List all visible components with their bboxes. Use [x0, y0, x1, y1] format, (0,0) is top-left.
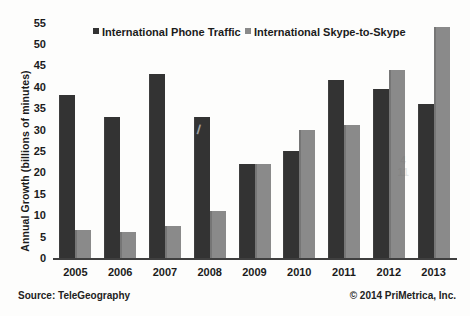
- copyright-notice: © 2014 PriMetrica, Inc.: [350, 290, 456, 301]
- watermark-artifact: 4 11: [395, 154, 411, 178]
- bar-phone-2013: [418, 104, 434, 258]
- bar-skype-2013: [434, 27, 450, 258]
- y-tick-label-30: 30: [18, 124, 46, 136]
- y-tick-label-15: 15: [18, 188, 46, 200]
- x-axis-line: [53, 258, 457, 260]
- bar-phone-2007: [149, 74, 165, 258]
- x-tick-label-2006: 2006: [98, 266, 142, 278]
- x-tick-label-2010: 2010: [277, 266, 321, 278]
- bar-phone-2011: [328, 80, 344, 258]
- bar-phone-2012: [373, 89, 389, 258]
- bar-phone-2008: [194, 117, 210, 258]
- y-axis-title: Annual Growth (billions of minutes): [19, 70, 31, 251]
- x-tick-label-2008: 2008: [188, 266, 232, 278]
- y-tick-label-10: 10: [18, 209, 46, 221]
- y-tick-label-20: 20: [18, 166, 46, 178]
- y-tick-label-55: 55: [18, 17, 46, 29]
- y-tick-label-45: 45: [18, 59, 46, 71]
- x-tick-label-2005: 2005: [53, 266, 97, 278]
- x-tick-label-2012: 2012: [367, 266, 411, 278]
- bar-skype-2009: [255, 164, 271, 258]
- y-tick-label-5: 5: [18, 231, 46, 243]
- plot-area: [53, 0, 456, 258]
- x-tick-label-2007: 2007: [143, 266, 187, 278]
- bar-phone-2010: [283, 151, 299, 258]
- bar-skype-2005: [75, 230, 91, 258]
- chart-image: International Phone Traffic Internationa…: [0, 0, 470, 316]
- bar-skype-2007: [165, 226, 181, 258]
- y-tick-label-25: 25: [18, 145, 46, 157]
- bar-skype-2006: [120, 232, 136, 258]
- x-tick-label-2009: 2009: [233, 266, 277, 278]
- x-tick-label-2013: 2013: [412, 266, 456, 278]
- source-credit: Source: TeleGeography: [18, 290, 130, 301]
- bar-phone-2006: [104, 117, 120, 258]
- x-tick-label-2011: 2011: [322, 266, 366, 278]
- y-tick-label-40: 40: [18, 81, 46, 93]
- bar-phone-2005: [59, 95, 75, 258]
- bar-skype-2010: [299, 130, 315, 258]
- bar-phone-2009: [239, 164, 255, 258]
- y-tick-label-50: 50: [18, 38, 46, 50]
- bar-skype-2011: [344, 125, 360, 258]
- y-tick-label-0: 0: [18, 252, 46, 264]
- y-tick-label-35: 35: [18, 102, 46, 114]
- bar-skype-2008: [210, 211, 226, 258]
